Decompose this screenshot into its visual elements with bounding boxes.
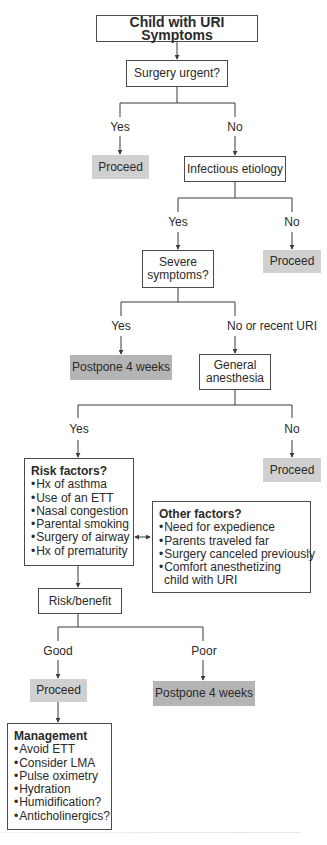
edge-label-rb-good: Good [43, 645, 72, 658]
edge-urgent-split-right [177, 103, 235, 117]
risk-factor-item: •Hx of prematurity [31, 545, 127, 558]
decision-severe-symptoms-line2: symptoms? [147, 269, 208, 282]
management-heading: Management [14, 730, 105, 743]
edge-label-urgent-yes: Yes [110, 121, 130, 134]
risk-factor-item: •Parental smoking [31, 518, 127, 531]
edge-label-infectious-no: No [284, 216, 299, 229]
edge-ga-split [78, 390, 235, 418]
management-box: Management •Avoid ETT •Consider LMA •Pul… [7, 723, 112, 830]
decision-risk-benefit: Risk/benefit [38, 588, 122, 614]
outcome-proceed-4-text: Proceed [36, 684, 81, 697]
edge-severe-split-right [178, 302, 235, 316]
other-factors-box: Other factors? •Need for expedience •Par… [152, 501, 311, 593]
management-item: •Humidification? [14, 796, 105, 809]
decision-general-anesthesia: General anesthesia [199, 354, 271, 390]
risk-factor-item: •Surgery of airway [31, 531, 127, 544]
edge-rb-split [58, 614, 78, 641]
management-item: •Pulse oximetry [14, 770, 105, 783]
decision-surgery-urgent-text: Surgery urgent? [134, 67, 220, 80]
outcome-proceed-1: Proceed [92, 155, 149, 179]
management-item: •Avoid ETT [14, 743, 105, 756]
risk-factor-item: •Use of an ETT [31, 492, 127, 505]
edge-urgent-split [120, 87, 177, 117]
edge-ga-split-right [235, 405, 292, 418]
outcome-proceed-2-text: Proceed [270, 255, 315, 268]
outcome-proceed-1-text: Proceed [98, 161, 143, 174]
risk-factors-box: Risk factors? •Hx of asthma •Use of an E… [24, 458, 134, 566]
decision-surgery-urgent: Surgery urgent? [126, 60, 228, 87]
edge-rb-split-right [78, 627, 203, 641]
edge-label-ga-yes: Yes [69, 423, 89, 436]
edge-infectious-split [178, 182, 235, 212]
edge-label-severe-yes: Yes [111, 320, 131, 333]
risk-factor-item: •Hx of asthma [31, 478, 127, 491]
other-factors-heading: Other factors? [159, 508, 304, 521]
outcome-proceed-2: Proceed [263, 250, 321, 273]
outcome-proceed-3: Proceed [263, 458, 321, 482]
other-factor-item-continuation: child with URI [159, 574, 304, 587]
edge-label-urgent-no: No [227, 121, 242, 134]
outcome-postpone-1-text: Postpone 4 weeks [72, 361, 170, 374]
outcome-postpone-2-text: Postpone 4 weeks [155, 687, 253, 700]
edge-label-severe-no: No or recent URI [227, 320, 317, 333]
edge-label-ga-no: No [284, 423, 299, 436]
decision-severe-symptoms: Severe symptoms? [142, 250, 214, 288]
outcome-proceed-3-text: Proceed [270, 464, 315, 477]
risk-factors-heading: Risk factors? [31, 465, 127, 478]
outcome-postpone-1: Postpone 4 weeks [70, 355, 172, 380]
outcome-postpone-2: Postpone 4 weeks [153, 681, 255, 706]
other-factor-item: •Parents traveled far [159, 535, 304, 548]
management-item: •Consider LMA [14, 757, 105, 770]
start-node-child-with-uri: Child with URI Symptoms [96, 15, 258, 42]
connector-lines [0, 0, 327, 845]
risk-factor-item: •Nasal congestion [31, 505, 127, 518]
management-item: •Hydration [14, 783, 105, 796]
decision-infectious-etiology-text: Infectious etiology [187, 163, 283, 176]
other-factor-item: •Need for expedience [159, 521, 304, 534]
edge-infectious-split-right [235, 198, 292, 212]
page-edge-shadow [0, 832, 300, 833]
decision-infectious-etiology: Infectious etiology [184, 156, 286, 182]
other-factor-item: •Comfort anesthetizing [159, 561, 304, 574]
edge-label-infectious-yes: Yes [168, 216, 188, 229]
edge-label-rb-poor: Poor [191, 645, 216, 658]
decision-risk-benefit-text: Risk/benefit [49, 595, 112, 608]
start-node-text: Child with URI Symptoms [97, 16, 257, 42]
edge-severe-split [121, 288, 178, 316]
management-item: •Anticholinergics? [14, 810, 105, 823]
outcome-proceed-4: Proceed [30, 679, 87, 702]
decision-general-anesthesia-line2: anesthesia [206, 372, 264, 385]
other-factor-item: •Surgery canceled previously [159, 548, 304, 561]
